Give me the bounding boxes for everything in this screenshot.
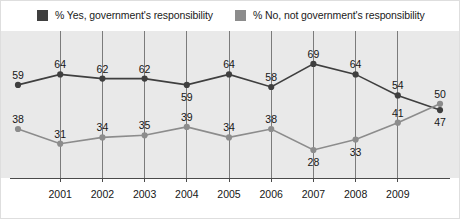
- x-tick-label: 2002: [91, 188, 114, 200]
- data-point: [142, 132, 148, 138]
- data-label: 34: [223, 121, 235, 133]
- data-point: [57, 71, 63, 77]
- data-label: 47: [434, 116, 446, 128]
- data-point: [57, 141, 63, 147]
- plot-area: 5964626259645869645447383134353934382833…: [0, 31, 460, 178]
- data-point: [268, 126, 274, 132]
- data-label: 64: [350, 58, 362, 70]
- x-tick-label: 2007: [302, 188, 325, 200]
- data-label: 38: [265, 113, 277, 125]
- data-point: [184, 124, 190, 130]
- data-label: 50: [434, 88, 446, 100]
- data-point: [226, 134, 232, 140]
- data-point: [395, 92, 401, 98]
- data-point: [310, 61, 316, 67]
- data-label: 35: [139, 119, 151, 131]
- data-point: [226, 71, 232, 77]
- data-label: 62: [97, 63, 109, 75]
- data-point: [437, 107, 443, 113]
- data-point: [268, 84, 274, 90]
- data-point: [142, 76, 148, 82]
- data-label: 59: [181, 91, 193, 103]
- data-point: [310, 147, 316, 153]
- data-point: [99, 134, 105, 140]
- data-point: [184, 82, 190, 88]
- x-tick-label: 2001: [49, 188, 72, 200]
- chart-legend: % Yes, government's responsibility % No,…: [0, 0, 460, 31]
- legend-entry-no: % No, not government's responsibility: [235, 7, 425, 23]
- data-point: [353, 71, 359, 77]
- data-label: 69: [308, 48, 320, 60]
- data-point: [395, 120, 401, 126]
- data-point: [353, 136, 359, 142]
- legend-label-yes: % Yes, government's responsibility: [55, 9, 213, 21]
- plot-svg: [0, 31, 460, 178]
- x-tick-label: 2003: [133, 188, 156, 200]
- legend-swatch-no-icon: [235, 10, 246, 21]
- data-label: 39: [181, 111, 193, 123]
- data-label: 28: [308, 156, 320, 168]
- legend-label-no: % No, not government's responsibility: [253, 9, 425, 21]
- x-axis: 200120022003200420052006200720082009: [0, 178, 460, 219]
- x-tick-label: 2004: [175, 188, 198, 200]
- x-tick-label: 2006: [260, 188, 283, 200]
- data-label: 38: [12, 113, 24, 125]
- data-label: 54: [392, 79, 404, 91]
- data-label: 58: [265, 71, 277, 83]
- x-tick-label: 2009: [386, 188, 409, 200]
- data-label: 62: [139, 63, 151, 75]
- x-tick-label: 2005: [217, 188, 240, 200]
- data-label: 34: [97, 121, 109, 133]
- legend-entry-yes: % Yes, government's responsibility: [37, 7, 213, 23]
- data-label: 64: [54, 58, 66, 70]
- legend-swatch-yes-icon: [37, 10, 48, 21]
- data-point: [15, 82, 21, 88]
- data-point: [15, 126, 21, 132]
- x-tick-label: 2008: [344, 188, 367, 200]
- chart-figure: % Yes, government's responsibility % No,…: [0, 0, 460, 219]
- data-label: 64: [223, 58, 235, 70]
- data-label: 41: [392, 107, 404, 119]
- data-label: 33: [350, 146, 362, 158]
- data-point: [437, 101, 443, 107]
- data-label: 59: [12, 69, 24, 81]
- data-label: 31: [54, 128, 66, 140]
- data-point: [99, 76, 105, 82]
